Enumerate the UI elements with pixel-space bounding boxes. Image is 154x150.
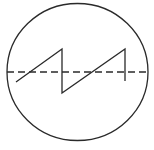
diagram-svg	[0, 0, 154, 150]
sawtooth-symbol-diagram	[0, 0, 154, 150]
sawtooth-waveform	[16, 49, 125, 93]
